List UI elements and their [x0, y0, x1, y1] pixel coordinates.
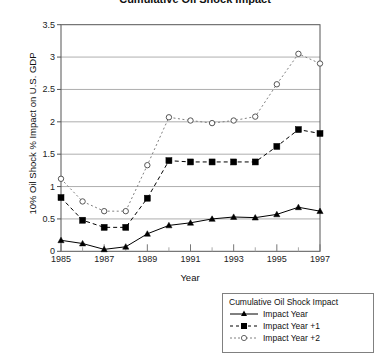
data-point-marker: [123, 224, 129, 230]
data-point-marker: [188, 118, 193, 123]
data-point-marker: [209, 120, 214, 125]
data-point-marker: [80, 217, 86, 223]
data-point-marker: [144, 195, 150, 201]
data-point-marker: [317, 130, 323, 136]
data-point-marker: [274, 143, 280, 149]
legend-item-impact-year-plus2[interactable]: Impact Year +2: [223, 332, 373, 344]
legend-marker-triangle-icon: [229, 308, 259, 320]
series-line: [61, 207, 320, 249]
series-line: [61, 54, 320, 211]
legend-item-impact-year-plus1[interactable]: Impact Year +1: [223, 320, 373, 332]
data-point-marker: [252, 159, 258, 165]
legend-marker-square-icon: [229, 320, 259, 332]
legend-marker-circle-icon: [229, 332, 259, 344]
series-2: [58, 127, 323, 231]
data-point-marker: [166, 158, 172, 164]
legend-item-impact-year[interactable]: Impact Year: [223, 308, 373, 320]
data-point-marker: [295, 204, 301, 210]
data-point-marker: [253, 114, 258, 119]
data-point-marker: [274, 82, 279, 87]
data-point-marker: [296, 51, 301, 56]
data-point-marker: [295, 127, 301, 133]
data-point-marker: [58, 176, 63, 181]
data-point-marker: [145, 162, 150, 167]
data-point-marker: [188, 159, 194, 165]
data-point-marker: [101, 224, 107, 230]
data-point-marker: [80, 199, 85, 204]
data-point-marker: [123, 208, 128, 213]
series-3: [58, 51, 322, 214]
data-point-marker: [317, 61, 322, 66]
data-point-marker: [101, 208, 106, 213]
plot-frame: [61, 25, 320, 252]
legend-title: Cumulative Oil Shock Impact: [223, 294, 373, 308]
data-point-marker: [123, 244, 129, 250]
chart-legend: Cumulative Oil Shock Impact Impact Year …: [222, 293, 374, 353]
chart-figure: Cumulative Oil Shock Impact 10% Oil Shoc…: [0, 0, 390, 362]
data-point-marker: [58, 195, 64, 201]
data-point-marker: [166, 115, 171, 120]
legend-label-impact-year: Impact Year: [259, 309, 308, 319]
legend-label-impact-year-plus2: Impact Year +2: [259, 333, 320, 343]
data-point-marker: [231, 118, 236, 123]
legend-label-impact-year-plus1: Impact Year +1: [259, 321, 320, 331]
data-point-marker: [58, 237, 64, 243]
data-point-marker: [231, 159, 237, 165]
data-point-marker: [209, 159, 215, 165]
